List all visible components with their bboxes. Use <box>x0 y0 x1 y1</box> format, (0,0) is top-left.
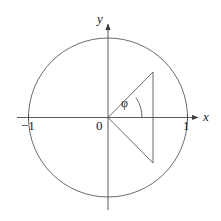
y-axis-label: y <box>97 12 103 25</box>
unit-circle-figure: x y 0 −1 1 φ <box>0 0 221 221</box>
origin-label: 0 <box>96 119 103 132</box>
x-axis-label: x <box>203 110 209 123</box>
angle-label-phi: φ <box>121 97 128 109</box>
angle-arc-phi <box>136 98 142 118</box>
radius-line-upper <box>108 72 153 118</box>
x-tick-label-negative-one: −1 <box>21 119 35 132</box>
radius-line-lower <box>108 118 153 164</box>
figure-canvas <box>0 0 221 221</box>
x-tick-label-one: 1 <box>183 119 190 132</box>
